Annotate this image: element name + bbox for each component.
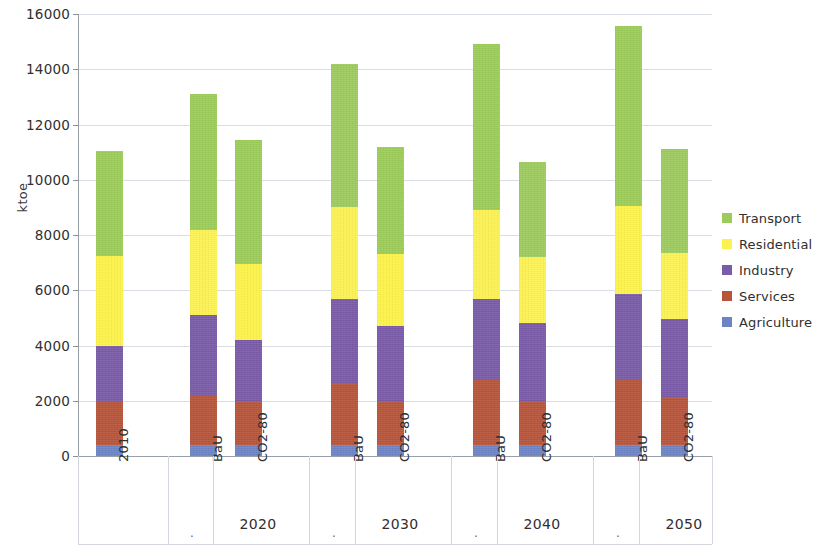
square-swatch-icon <box>722 317 732 327</box>
bar-segment-transport[interactable] <box>190 94 217 229</box>
bar-segment-residential[interactable] <box>519 257 546 323</box>
bar-segment-transport[interactable] <box>96 151 123 256</box>
bar-segment-residential[interactable] <box>661 253 688 319</box>
y-axis-tick-label: 0 <box>8 448 70 464</box>
bar-segment-transport[interactable] <box>519 162 546 257</box>
bar-5[interactable] <box>473 44 500 456</box>
bar-segment-transport[interactable] <box>615 26 642 206</box>
group-separator-dot: . <box>616 526 620 540</box>
bar-segment-industry[interactable] <box>661 319 688 398</box>
y-axis-tick-label: 8000 <box>8 227 70 243</box>
x-axis-tick-label: BaU <box>351 400 366 462</box>
stacked-bar-chart: ktoe TransportResidentialIndustryService… <box>0 0 813 546</box>
square-swatch-icon <box>722 239 732 249</box>
bar-segment-transport[interactable] <box>377 147 404 255</box>
plot-area <box>78 14 712 456</box>
y-axis-tick-label: 6000 <box>8 282 70 298</box>
x-axis-tick-label: BaU <box>493 400 508 462</box>
y-axis-tick-label: 4000 <box>8 338 70 354</box>
x-axis-group-label: 2020 <box>198 516 318 532</box>
square-swatch-icon <box>722 291 732 301</box>
bar-segment-industry[interactable] <box>519 323 546 402</box>
x-axis-group-label: 2040 <box>482 516 602 532</box>
x-axis-bottom-line <box>78 544 712 545</box>
x-axis-group-separator <box>168 456 169 544</box>
gridline <box>78 14 712 15</box>
y-axis-tick-label: 12000 <box>8 117 70 133</box>
square-swatch-icon <box>722 213 732 223</box>
bar-segment-industry[interactable] <box>331 299 358 385</box>
bar-segment-residential[interactable] <box>377 254 404 326</box>
bar-segment-residential[interactable] <box>331 207 358 298</box>
legend-item-residential[interactable]: Residential <box>722 231 812 257</box>
bar-segment-residential[interactable] <box>473 210 500 298</box>
legend-item-agriculture[interactable]: Agriculture <box>722 309 812 335</box>
x-axis-line <box>78 456 712 457</box>
bar-segment-industry[interactable] <box>96 346 123 401</box>
x-axis-group-label: 2050 <box>624 516 744 532</box>
legend-item-label: Residential <box>739 237 812 252</box>
legend-item-label: Transport <box>739 211 801 226</box>
x-axis-tick-label: 2010 <box>116 400 131 462</box>
y-axis-tick-label: 2000 <box>8 393 70 409</box>
x-axis-tick-label: BaU <box>635 400 650 462</box>
legend-item-transport[interactable]: Transport <box>722 205 812 231</box>
y-axis-tick-label: 14000 <box>8 61 70 77</box>
group-separator-dot: . <box>332 526 336 540</box>
bar-segment-residential[interactable] <box>96 256 123 346</box>
bar-segment-industry[interactable] <box>473 299 500 379</box>
bar-segment-industry[interactable] <box>235 340 262 402</box>
group-separator-dot: . <box>474 526 478 540</box>
x-axis-tick-label: BaU <box>210 400 225 462</box>
x-axis-tick-label: CO2-80 <box>539 400 554 462</box>
x-axis-group-separator <box>78 456 79 544</box>
bar-segment-transport[interactable] <box>331 64 358 208</box>
bar-segment-residential[interactable] <box>190 230 217 316</box>
bar-segment-residential[interactable] <box>235 264 262 340</box>
y-axis-tick-label: 10000 <box>8 172 70 188</box>
bar-segment-industry[interactable] <box>377 326 404 402</box>
x-axis-group-label: 2030 <box>340 516 460 532</box>
bar-segment-industry[interactable] <box>190 315 217 395</box>
square-swatch-icon <box>722 265 732 275</box>
bar-segment-transport[interactable] <box>473 44 500 210</box>
bar-3[interactable] <box>331 64 358 456</box>
legend-item-services[interactable]: Services <box>722 283 812 309</box>
legend-item-label: Services <box>739 289 795 304</box>
legend-item-industry[interactable]: Industry <box>722 257 812 283</box>
legend-item-label: Agriculture <box>739 315 812 330</box>
chart-legend: TransportResidentialIndustryServicesAgri… <box>722 205 812 335</box>
x-axis-tick-label: CO2-80 <box>397 400 412 462</box>
bar-segment-industry[interactable] <box>615 294 642 378</box>
bar-segment-transport[interactable] <box>661 149 688 253</box>
y-axis-spine <box>78 14 79 456</box>
bar-7[interactable] <box>615 26 642 456</box>
x-axis-tick-label: CO2-80 <box>681 400 696 462</box>
legend-item-label: Industry <box>739 263 794 278</box>
x-axis-tick-label: CO2-80 <box>255 400 270 462</box>
y-axis-tick-label: 16000 <box>8 6 70 22</box>
bar-segment-residential[interactable] <box>615 206 642 294</box>
group-separator-dot: . <box>190 526 194 540</box>
bar-segment-transport[interactable] <box>235 140 262 264</box>
